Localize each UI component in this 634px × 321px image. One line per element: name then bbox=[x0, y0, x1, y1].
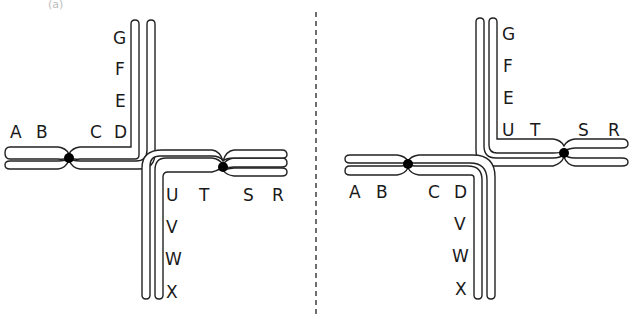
centromere bbox=[64, 153, 74, 163]
gene-label: F bbox=[115, 59, 125, 79]
gene-label: B bbox=[376, 182, 388, 202]
chromatid bbox=[345, 155, 495, 299]
chromatid bbox=[223, 168, 287, 176]
gene-label: D bbox=[114, 122, 127, 142]
gene-label: G bbox=[113, 28, 126, 48]
gene-label: T bbox=[529, 120, 541, 140]
right-chromosome-abcdvwx bbox=[345, 155, 495, 299]
gene-label: R bbox=[608, 120, 620, 140]
gene-label: W bbox=[452, 246, 469, 266]
left-chromosome-abcdefg bbox=[5, 20, 155, 169]
gene-label: V bbox=[166, 217, 178, 237]
gene-label: C bbox=[90, 122, 102, 142]
gene-label: X bbox=[455, 279, 467, 299]
gene-label: V bbox=[454, 214, 466, 234]
gene-label: A bbox=[10, 122, 22, 142]
gene-label: B bbox=[36, 122, 48, 142]
left-chromosome-utsrvwx bbox=[142, 150, 287, 299]
gene-label: F bbox=[503, 56, 513, 76]
gene-label: W bbox=[165, 249, 182, 269]
gene-label: D bbox=[454, 182, 467, 202]
centromere bbox=[218, 162, 228, 172]
gene-label: C bbox=[428, 182, 440, 202]
gene-label: S bbox=[578, 120, 589, 140]
gene-label: E bbox=[503, 88, 514, 108]
gene-label: A bbox=[349, 182, 361, 202]
chromosome-translocation-diagram: (a) A B C D E F G U T S R V W X bbox=[0, 0, 634, 321]
figure-caption: (a) bbox=[48, 0, 63, 11]
gene-label: T bbox=[198, 185, 210, 205]
gene-label: S bbox=[243, 185, 254, 205]
gene-label: X bbox=[166, 282, 178, 302]
gene-label: R bbox=[272, 185, 284, 205]
gene-label: U bbox=[502, 120, 514, 140]
right-panel: G F E U T S R A B C D V W X bbox=[345, 18, 628, 299]
left-panel: A B C D E F G U T S R V W X bbox=[5, 20, 287, 302]
gene-label: U bbox=[166, 185, 178, 205]
right-chromosome-gfeutsr bbox=[476, 18, 628, 166]
centromere bbox=[403, 159, 413, 169]
gene-label: E bbox=[115, 91, 126, 111]
gene-label: G bbox=[502, 24, 515, 44]
centromere bbox=[559, 148, 569, 158]
